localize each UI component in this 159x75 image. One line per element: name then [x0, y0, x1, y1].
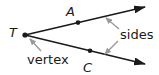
sides-label: sides [120, 27, 154, 42]
angle-diagram: T A C sides vertex [0, 0, 159, 75]
point-T [22, 32, 27, 37]
vertex-pointer-icon [30, 39, 41, 51]
vertex-label: vertex [27, 52, 69, 67]
label-A: A [65, 4, 75, 19]
sides-pointer-lower-icon [105, 41, 118, 54]
label-C: C [83, 60, 93, 75]
point-C [88, 48, 93, 53]
label-T: T [9, 25, 18, 40]
point-A [76, 20, 81, 25]
sides-pointer-upper-icon [106, 18, 119, 29]
